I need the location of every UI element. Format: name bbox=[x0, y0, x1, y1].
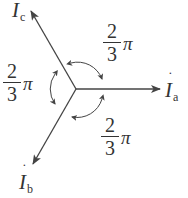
phasor-ib-line bbox=[33, 89, 76, 164]
angle-label-ac: 23 π bbox=[103, 21, 133, 64]
angle-label-cb: 23 π bbox=[3, 61, 33, 104]
angle-arc-ba bbox=[72, 99, 102, 118]
angle-arc-cb bbox=[50, 74, 55, 104]
label-ia: ˙Ia bbox=[165, 80, 178, 103]
label-ic: ˙Ic bbox=[12, 0, 25, 23]
angle-label-ba: 23 π bbox=[101, 115, 131, 158]
angle-arc-ac bbox=[71, 62, 102, 79]
label-ib: ˙Ib bbox=[19, 172, 33, 195]
